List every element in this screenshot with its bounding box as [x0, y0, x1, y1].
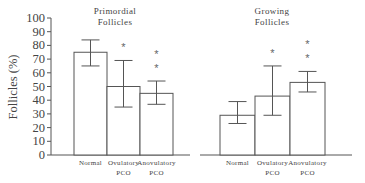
- y-tick-label: 20: [33, 121, 46, 135]
- significance-marker: *: [121, 41, 126, 53]
- panel-growing-follicles: GrowingFolliclesNormal*OvulatoryPCO**Ano…: [200, 6, 352, 177]
- significance-marker: *: [305, 38, 310, 50]
- bar: [74, 52, 107, 155]
- y-tick-label: 40: [33, 93, 46, 107]
- panel-title: Primordial: [94, 6, 137, 16]
- y-tick-label: 10: [33, 134, 46, 148]
- significance-marker: *: [305, 52, 310, 64]
- x-tick-label: PCO: [265, 169, 280, 177]
- y-tick-label: 0: [39, 148, 45, 162]
- x-tick-label: PCO: [149, 169, 164, 177]
- x-tick-label: Normal: [79, 159, 102, 167]
- y-tick-label: 100: [26, 11, 45, 25]
- panel-title: Follicles: [98, 17, 133, 27]
- y-tick-label: 80: [33, 38, 46, 52]
- y-tick-label: 60: [33, 66, 46, 80]
- x-tick-label: Ovulatory: [108, 159, 139, 167]
- panel-title: Follicles: [255, 17, 290, 27]
- chart: 0102030405060708090100 Follicles (%) Pri…: [0, 0, 365, 183]
- x-tick-label: PCO: [116, 169, 131, 177]
- x-tick-label: Normal: [226, 159, 249, 167]
- y-tick-label: 50: [33, 80, 46, 94]
- y-axis-label: Follicles (%): [6, 55, 20, 120]
- y-tick-label: 70: [33, 52, 46, 66]
- panel-primordial-follicles: PrimordialFolliclesNormal*OvulatoryPCO**…: [51, 6, 190, 177]
- significance-marker: *: [154, 62, 159, 74]
- y-axis: 0102030405060708090100: [26, 11, 51, 162]
- bar: [290, 82, 325, 155]
- significance-marker: *: [270, 47, 275, 59]
- y-tick-label: 30: [33, 107, 46, 121]
- x-tick-label: Anovulatory: [288, 159, 327, 167]
- panel-title: Growing: [255, 6, 290, 16]
- x-tick-label: PCO: [300, 169, 315, 177]
- significance-marker: *: [154, 48, 159, 60]
- x-tick-label: Anovulatory: [137, 159, 176, 167]
- x-tick-label: Ovulatory: [257, 159, 288, 167]
- y-tick-label: 90: [33, 25, 46, 39]
